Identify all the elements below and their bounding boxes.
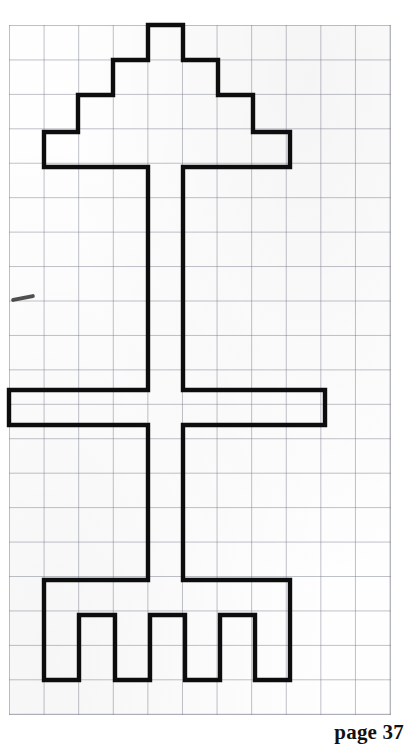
grid-figure-drawing bbox=[0, 0, 412, 749]
page-number-label: page 37 bbox=[334, 720, 404, 745]
scanned-page: page 37 bbox=[0, 0, 412, 749]
figure-outline bbox=[9, 25, 325, 680]
figure-outline-path bbox=[9, 25, 325, 680]
